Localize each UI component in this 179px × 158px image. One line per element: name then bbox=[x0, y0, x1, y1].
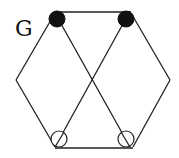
edge-diagonal-top-right-to-bottom-left bbox=[55, 22, 124, 147]
node-bottom-left-open bbox=[51, 131, 67, 147]
graph-diagram: G bbox=[0, 0, 179, 158]
node-top-right-filled bbox=[118, 11, 134, 27]
edge-left-to-bottom-left bbox=[16, 80, 55, 147]
graph-label: G bbox=[15, 16, 33, 41]
edge-diagonal-top-left-to-bottom-right bbox=[60, 22, 130, 147]
edge-right-to-top-right bbox=[131, 13, 170, 80]
edge-bottom-right-to-right bbox=[133, 80, 170, 147]
node-top-left-filled bbox=[49, 11, 65, 27]
node-bottom-right-open bbox=[118, 131, 134, 147]
